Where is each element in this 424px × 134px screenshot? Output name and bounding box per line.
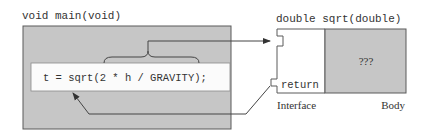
main-signature: void main(void): [22, 10, 121, 22]
function-call-diagram: void main(void) t = sqrt(2 * h / GRAVITY…: [0, 0, 424, 134]
return-label: return: [281, 79, 319, 91]
call-statement: t = sqrt(2 * h / GRAVITY);: [43, 72, 207, 84]
body-label: Body: [381, 99, 405, 111]
interface-label: Interface: [277, 99, 316, 111]
sqrt-signature: double sqrt(double): [276, 13, 401, 25]
body-unknown-text: ???: [359, 55, 374, 67]
